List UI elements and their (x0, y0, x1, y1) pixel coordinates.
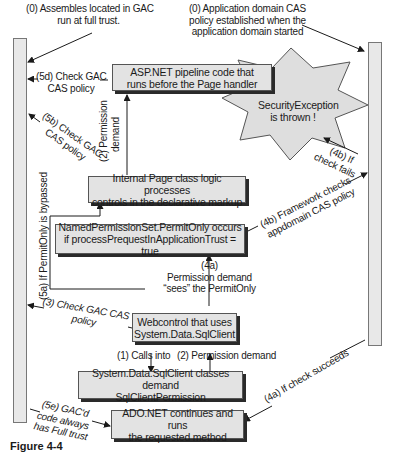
box-aspnet-pipeline: ASP.NET pipeline code that runs before t… (112, 64, 272, 91)
label-check-5d: (5d) Check GAC CAS policy (36, 71, 106, 94)
box-webcontrol: Webcontrol that uses System.Data.SqlClie… (132, 313, 237, 342)
label-permission-demand-4a: (4a) Permission demand “sees” the Permit… (152, 260, 267, 295)
box-named-permission-set: NamedPermissionSet.PermitOnly occurs if … (55, 224, 245, 254)
box-internal-page-logic: Internal Page class logic processes cont… (88, 176, 246, 203)
label-appdomain-policy: (0) Application domain CAS policy establ… (180, 3, 315, 38)
label-gac-full-trust: (0) Assembles located in GAC run at full… (26, 3, 151, 26)
figure-caption: Figure 4-4 (10, 440, 63, 452)
box-sqlclient-demand: System.Data.SqlClient classes demand Sql… (78, 371, 243, 399)
label-permission-demand-2-bottom: (2) Permission demand (177, 350, 276, 362)
box-adonet-continues: ADO.NET continues and runs the requested… (111, 410, 244, 439)
left-gac-bar (13, 38, 27, 423)
label-calls-into-1: (1) Calls into (117, 350, 170, 362)
right-appdomain-bar (368, 42, 382, 346)
security-flow-diagram: (0) Assembles located in GAC run at full… (0, 0, 394, 452)
label-permitonly-bypassed-5a: (5a) If PermitOnly is bypassed (38, 172, 50, 300)
security-exception-label: SecurityException is thrown ! (258, 100, 328, 123)
